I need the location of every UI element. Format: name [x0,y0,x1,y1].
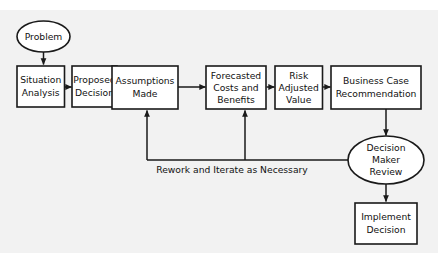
implement-decision-label-line1: Implement [361,211,411,222]
proposed-decision-label-line2: Decision [75,87,114,98]
node-proposed-decision[interactable]: Proposed Decision [72,66,117,107]
implement-decision-label-line2: Decision [366,224,405,235]
decision-maker-review-label-line2: Maker [372,154,400,165]
forecasted-costs-benefits-label-line1: Forecasted [211,70,261,81]
forecasted-costs-benefits-label-line2: Costs and [213,82,258,93]
decision-maker-review-label-line1: Decision [366,142,405,153]
node-decision-maker-review[interactable]: Decision Maker Review [348,136,424,184]
edge-label-rework: Rework and Iterate as Necessary [117,163,347,177]
node-problem[interactable]: Problem [17,21,70,52]
proposed-decision-label-line1: Proposed [73,74,115,85]
business-case-recommendation-label-line1: Business Case [343,75,409,86]
assumptions-made-label-line1: Assumptions [116,75,175,86]
node-assumptions-made[interactable]: Assumptions Made [112,66,178,109]
node-business-case-recommendation[interactable]: Business Case Recommendation [331,66,421,109]
flowchart-svg: Problem Situation Analysis Proposed Deci… [0,0,438,263]
forecasted-costs-benefits-label-line3: Benefits [217,94,255,105]
business-case-recommendation-label-line2: Recommendation [336,88,417,99]
situation-analysis-label-line2: Analysis [22,87,60,98]
problem-label: Problem [25,31,63,42]
node-situation-analysis[interactable]: Situation Analysis [17,66,65,107]
situation-analysis-label-line1: Situation [20,74,61,85]
assumptions-made-label-line2: Made [132,88,157,99]
decision-maker-review-label-line3: Review [370,166,403,177]
node-implement-decision[interactable]: Implement Decision [355,203,417,244]
risk-adjusted-value-label-line3: Value [286,94,312,105]
risk-adjusted-value-label-line2: Adjusted [279,82,319,93]
risk-adjusted-value-label-line1: Risk [289,70,309,81]
node-forecasted-costs-benefits[interactable]: Forecasted Costs and Benefits [206,66,266,109]
flowchart-canvas: Problem Situation Analysis Proposed Deci… [0,0,438,263]
rework-label-text: Rework and Iterate as Necessary [156,164,308,175]
node-risk-adjusted-value[interactable]: Risk Adjusted Value [275,66,323,109]
